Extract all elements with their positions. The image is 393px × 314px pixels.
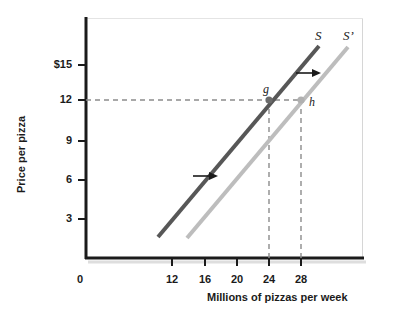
data-point-g[interactable] xyxy=(265,96,272,103)
y-tick-label-12: 12 xyxy=(22,94,72,105)
y-tick-label-9: 9 xyxy=(22,135,72,146)
chart-figure: $15 12 9 6 3 0 12 16 20 24 28 Price per … xyxy=(0,0,393,314)
origin-label: 0 xyxy=(66,274,94,285)
x-tick-label-12: 12 xyxy=(158,274,186,285)
curve-label-s-prime: S’ xyxy=(343,29,354,42)
y-tick-label-3: 3 xyxy=(22,213,72,224)
x-tick-label-20: 20 xyxy=(223,274,251,285)
x-tick-label-16: 16 xyxy=(191,274,219,285)
y-tick-label-6: 6 xyxy=(22,174,72,185)
plot-area-background xyxy=(85,18,363,258)
x-tick-label-28: 28 xyxy=(287,274,315,285)
point-label-g: g xyxy=(263,83,269,95)
supply-curve-plot xyxy=(0,0,393,314)
y-axis-title: Price per pizza xyxy=(16,116,27,193)
point-label-h: h xyxy=(309,96,315,108)
data-point-h[interactable] xyxy=(297,96,304,103)
y-tick-label-15: $15 xyxy=(22,59,72,70)
curve-label-s: S xyxy=(315,29,322,42)
x-tick-label-24: 24 xyxy=(255,274,283,285)
x-axis-title: Millions of pizzas per week xyxy=(207,292,348,303)
